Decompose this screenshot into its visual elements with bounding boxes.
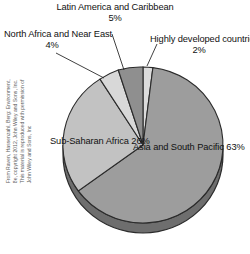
slice-label-percent: 26% [131, 136, 149, 146]
chart-stage: Latin America and Caribbean 5% North Afr… [0, 0, 250, 254]
source-credit-line-2: 8e, copyright 2012, John Wiley and Sons,… [12, 11, 19, 183]
slice-label-percent: 63% [226, 142, 244, 152]
slice-label-sub-saharan-africa: Sub-Saharan Africa 26% [50, 136, 132, 147]
source-credit-line-1: From Raven, Hassenzahl, Berg: Environmen… [5, 11, 12, 183]
slice-callout-label-line1: Highly developed [150, 34, 220, 44]
slice-callout-percent: 2% [150, 45, 248, 56]
source-credit-line-4: John Wiley and Sons, Inc [26, 11, 33, 183]
pie-chart-figure: Latin America and Caribbean 5% North Afr… [0, 0, 250, 254]
slice-callout-percent: 5% [56, 13, 174, 24]
source-credit-line-3: This material is reproduced with permiss… [19, 11, 26, 183]
slice-callout-label-line2: and Near East [54, 29, 112, 39]
slice-label-line2: Pacific [197, 142, 224, 152]
leader-line-latin-america [112, 34, 124, 70]
slice-callout-label-line2: Caribbean [132, 2, 174, 12]
slice-callout-highly-developed-countries: Highly developed countries 2% [150, 34, 248, 56]
source-credit: From Raven, Hassenzahl, Berg: Environmen… [5, 11, 33, 183]
slice-label-line1: Sub-Saharan [50, 136, 104, 146]
leader-line-north-africa [56, 53, 104, 78]
slice-callout-label-line1: Latin America and [56, 2, 129, 12]
slice-label-line2: Africa [106, 136, 129, 146]
slice-callout-latin-america-and-caribbean: Latin America and Caribbean 5% [56, 2, 174, 24]
slice-callout-label-line2: countries [222, 34, 250, 44]
